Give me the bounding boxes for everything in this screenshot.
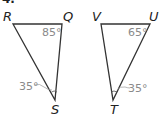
triangle-vut: V U T 65° 35° [92, 9, 159, 117]
angle-arc-s [52, 91, 58, 92]
angle-label-s: 35° [19, 80, 39, 93]
vertex-label-r: R [3, 9, 12, 24]
vertex-label-q: Q [63, 9, 73, 24]
angle-label-q: 85° [42, 26, 62, 39]
geometry-diagram: 4. R Q S 85° 35° V U T 65° 35° [0, 0, 161, 118]
problem-number: 4. [2, 0, 15, 6]
vertex-label-t: T [110, 102, 119, 117]
angle-label-t: 35° [128, 82, 148, 95]
angle-label-u: 65° [128, 26, 148, 39]
vertex-label-s: S [51, 102, 59, 117]
vertex-label-u: U [149, 9, 159, 24]
triangle-rqs: R Q S 85° 35° [3, 9, 73, 117]
vertex-label-v: V [92, 9, 102, 24]
angle-arc-t [111, 91, 117, 92]
